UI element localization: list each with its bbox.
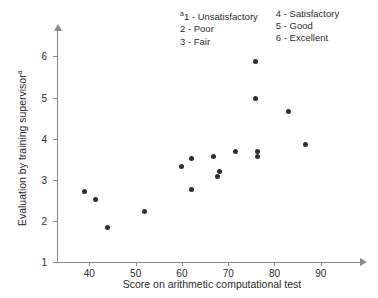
x-tick	[89, 262, 90, 266]
y-axis-arrow-icon	[54, 24, 62, 31]
x-tick	[136, 262, 137, 266]
y-axis-line	[57, 30, 58, 262]
y-tick	[53, 139, 57, 140]
y-axis-title-superscript: a	[16, 70, 23, 74]
legend-item-label: 2 - Poor	[180, 23, 214, 34]
scatter-plot-figure: a1 - Unsatisfactory 2 - Poor 3 - Fair 4 …	[0, 0, 378, 298]
data-point	[303, 142, 308, 147]
x-tick	[321, 262, 322, 266]
x-axis-title: Score on arithmetic computational test	[57, 278, 367, 290]
data-point	[179, 164, 184, 169]
x-axis-line	[57, 262, 363, 263]
data-point	[286, 109, 291, 114]
y-tick-label: 6	[41, 51, 47, 62]
y-tick	[53, 180, 57, 181]
x-tick	[228, 262, 229, 266]
y-axis-title: Evaluation by training supervisora	[16, 38, 29, 258]
data-point	[217, 169, 222, 174]
data-point	[253, 59, 258, 64]
y-tick-label: 1	[41, 257, 47, 268]
data-point	[255, 149, 260, 154]
x-tick	[274, 262, 275, 266]
y-tick	[53, 56, 57, 57]
legend-item: 4 - Satisfactory	[276, 8, 339, 20]
plot-area: 405060708090 123456	[57, 40, 367, 262]
y-tick	[53, 262, 57, 263]
legend-item-label: 4 - Satisfactory	[276, 8, 339, 19]
legend-item: 5 - Good	[276, 20, 339, 32]
y-tick-label: 3	[41, 174, 47, 185]
data-point	[105, 225, 110, 230]
x-tick	[182, 262, 183, 266]
data-point	[142, 209, 147, 214]
data-point	[215, 174, 220, 179]
legend-item-label: 5 - Good	[276, 20, 313, 31]
data-point	[233, 149, 238, 154]
y-tick	[53, 98, 57, 99]
data-point	[255, 154, 260, 159]
data-point	[189, 156, 194, 161]
data-point	[189, 187, 194, 192]
y-tick-label: 4	[41, 133, 47, 144]
data-point	[211, 154, 216, 159]
legend-item: 2 - Poor	[180, 23, 258, 35]
y-axis-title-text: Evaluation by training supervisor	[16, 74, 28, 226]
data-point	[253, 96, 258, 101]
y-tick-label: 2	[41, 215, 47, 226]
x-axis-arrow-icon	[360, 258, 367, 266]
data-point	[82, 189, 87, 194]
legend-item: a1 - Unsatisfactory	[180, 8, 258, 23]
data-point	[93, 197, 98, 202]
legend-item-label: 1 - Unsatisfactory	[184, 11, 258, 22]
y-tick-label: 5	[41, 92, 47, 103]
y-tick	[53, 221, 57, 222]
